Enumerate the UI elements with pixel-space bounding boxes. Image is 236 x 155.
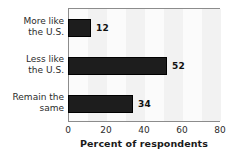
bar-value-1: 52 bbox=[172, 61, 185, 71]
category-label-1: Less like the U.S. bbox=[2, 54, 64, 76]
xtick-label-0: 0 bbox=[65, 125, 71, 135]
category-label-line: same bbox=[2, 103, 64, 114]
category-label-line: the U.S. bbox=[2, 27, 64, 38]
xtick-label-4: 80 bbox=[214, 125, 225, 135]
xtick-label-3: 60 bbox=[176, 125, 187, 135]
category-label-line: Less like bbox=[2, 54, 64, 65]
xtick-label-1: 20 bbox=[100, 125, 111, 135]
bar-less-like-us bbox=[68, 57, 167, 75]
bar-chart-figure: More like the U.S. Less like the U.S. Re… bbox=[0, 0, 236, 155]
background-band bbox=[202, 9, 221, 121]
bar-value-0: 12 bbox=[96, 23, 109, 33]
category-label-2: Remain the same bbox=[2, 92, 64, 114]
bar-more-like-us bbox=[68, 19, 91, 37]
category-label-line: More like bbox=[2, 16, 64, 27]
category-label-0: More like the U.S. bbox=[2, 16, 64, 38]
xtick-label-2: 40 bbox=[138, 125, 149, 135]
bar-value-2: 34 bbox=[138, 99, 151, 109]
category-label-line: the U.S. bbox=[2, 65, 64, 76]
bar-remain-the-same bbox=[68, 95, 133, 113]
category-label-line: Remain the bbox=[2, 92, 64, 103]
x-axis-title: Percent of respondents bbox=[68, 138, 220, 149]
